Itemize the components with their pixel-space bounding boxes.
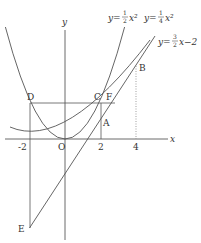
eq-quarter: y= 1 4 x² xyxy=(143,9,174,24)
svg-text:1: 1 xyxy=(123,9,127,16)
eq-half: y= 1 2 x² xyxy=(107,9,138,24)
diagram: y x O -2 2 4 D C F A B E y= 1 2 x² y= 1 … xyxy=(0,0,201,243)
svg-text:1: 1 xyxy=(159,9,163,16)
point-F: F xyxy=(106,92,112,102)
parabola-quarter-curve xyxy=(10,40,150,131)
point-C: C xyxy=(94,92,101,102)
svg-text:x²: x² xyxy=(165,13,174,23)
eq-line: y= 3 2 x−2 xyxy=(157,33,198,48)
tick-neg2: -2 xyxy=(18,142,27,152)
svg-text:x²: x² xyxy=(129,13,138,23)
svg-text:4: 4 xyxy=(159,17,163,24)
y-axis-label: y xyxy=(61,17,68,27)
x-axis-label: x xyxy=(170,134,175,144)
svg-text:3: 3 xyxy=(173,33,177,40)
tick-2: 2 xyxy=(98,142,104,152)
point-D: D xyxy=(27,92,34,102)
svg-text:2: 2 xyxy=(123,17,127,24)
point-E: E xyxy=(18,224,25,234)
point-A: A xyxy=(102,118,110,128)
svg-text:y=: y= xyxy=(107,13,121,23)
svg-text:y=: y= xyxy=(157,37,171,47)
svg-text:y=: y= xyxy=(143,13,157,23)
point-B: B xyxy=(139,63,146,73)
tick-4: 4 xyxy=(133,142,139,152)
svg-text:x−2: x−2 xyxy=(179,37,198,47)
origin-label: O xyxy=(58,142,65,152)
svg-text:2: 2 xyxy=(173,41,177,48)
